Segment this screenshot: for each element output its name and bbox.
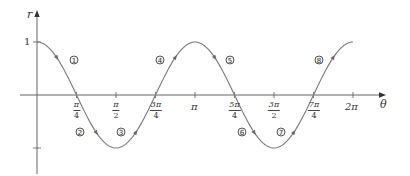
tick-label-3pi-2: 3π2 xyxy=(268,101,280,120)
tick-label-pi: π xyxy=(191,102,198,112)
circled-label-1: 1 xyxy=(70,56,79,65)
circled-label-5: 5 xyxy=(226,56,235,65)
circled-label-8: 8 xyxy=(315,56,324,65)
theta-axis-label: θ xyxy=(380,99,387,110)
r-axis-arrow-icon xyxy=(34,10,39,17)
theta-axis-arrow-icon xyxy=(379,92,386,97)
tick-label-2pi: 2π xyxy=(345,102,358,112)
tick-label-pi-4: π4 xyxy=(73,101,80,120)
circled-label-2: 2 xyxy=(76,128,85,137)
circled-label-3: 3 xyxy=(117,128,126,137)
circled-label-6: 6 xyxy=(238,128,247,137)
tick-label-7pi-4: 7π4 xyxy=(308,101,320,120)
polar-rectangular-graph xyxy=(0,0,410,176)
circled-label-4: 4 xyxy=(156,56,165,65)
tick-label-5pi-4: 5π4 xyxy=(228,101,240,120)
tick-label-pi-2: π2 xyxy=(112,101,119,120)
r-axis-label: r xyxy=(27,9,32,20)
tick-label-3pi-4: 3π4 xyxy=(150,101,162,120)
circled-label-7: 7 xyxy=(277,128,286,137)
r-one-label: 1 xyxy=(24,37,30,47)
